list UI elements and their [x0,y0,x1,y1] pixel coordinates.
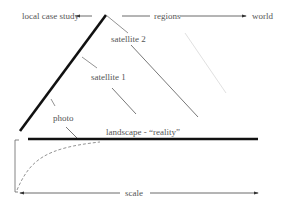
faint-line [185,33,226,93]
diagram-canvas [0,0,285,206]
apex-thin-line [106,15,128,33]
photo-line [66,127,77,138]
vertical-axis [15,140,19,192]
photo-leader [51,99,55,106]
regions-label: regions [154,11,181,21]
dashed-curve [17,142,100,190]
photo-label: photo [53,113,74,123]
satellite2-line [131,45,198,117]
world-label: world [252,11,273,21]
satellite2-label: satellite 2 [111,34,146,44]
satellite1-label: satellite 1 [91,72,126,82]
scale-label: scale [125,188,143,198]
satellite1-line [112,88,136,114]
satellite1-leader [82,57,97,68]
local-case-study-label: local case study [22,11,79,21]
landscape-label: landscape - “reality” [106,127,180,137]
